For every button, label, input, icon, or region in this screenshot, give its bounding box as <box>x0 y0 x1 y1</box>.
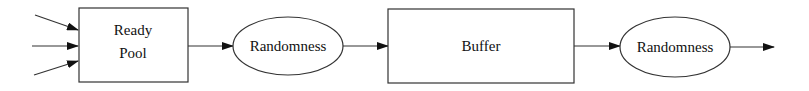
randomness-2-label: Randomness <box>637 39 714 55</box>
ready-pool-label-line2: Pool <box>119 45 147 61</box>
randomness-node-1: Randomness <box>233 17 343 75</box>
randomness-1-label: Randomness <box>250 38 327 54</box>
buffer-label: Buffer <box>462 38 501 54</box>
ready-pool-label-line1: Ready <box>114 22 153 38</box>
flow-diagram: Ready Pool Randomness Buffer Randomness <box>0 0 809 91</box>
buffer-node: Buffer <box>388 9 574 83</box>
ready-pool-node: Ready Pool <box>79 8 188 82</box>
input-arrow-3 <box>34 61 78 75</box>
input-arrow-1 <box>35 15 78 30</box>
randomness-node-2: Randomness <box>620 17 730 77</box>
